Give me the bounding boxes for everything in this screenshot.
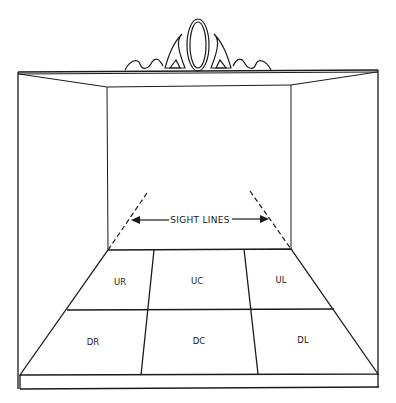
area-label-ul: UL [276, 275, 287, 285]
area-label-dc: DC [193, 336, 206, 346]
area-label-dl: DL [297, 335, 309, 345]
proscenium-ornament [125, 19, 271, 71]
sight-lines-label: SIGHT LINES [170, 215, 230, 225]
area-label-ur: UR [114, 277, 126, 287]
stage-diagram: SIGHT LINES UR UC UL DR DC DL [0, 0, 396, 403]
area-label-uc: UC [191, 276, 203, 286]
area-label-dr: DR [87, 337, 100, 347]
stage-floor [20, 249, 379, 389]
